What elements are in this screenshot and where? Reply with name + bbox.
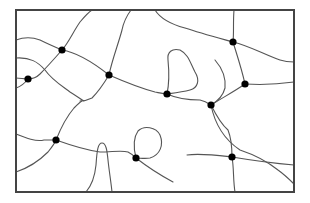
node-dot (207, 101, 214, 108)
node-dot (163, 90, 170, 97)
edge-line (134, 128, 161, 159)
node-dot (58, 46, 65, 53)
edge-line (62, 50, 109, 75)
edge-line (232, 157, 294, 165)
edge-line (109, 10, 131, 75)
node-dot (24, 75, 31, 82)
edge-line (211, 105, 294, 184)
edge-line (155, 10, 233, 42)
edge-line (136, 158, 173, 182)
node-dot (52, 136, 59, 143)
edge-line (80, 75, 109, 101)
edge-line (56, 101, 82, 140)
node-dot (241, 80, 248, 87)
edge-line (245, 82, 294, 84)
network-diagram (0, 0, 310, 203)
node-dot (132, 154, 139, 161)
node-dot (229, 38, 236, 45)
edge-line (62, 10, 92, 50)
edge-line (187, 154, 232, 157)
edge-line (233, 10, 234, 42)
diagram-frame (16, 10, 294, 192)
edge-line (167, 94, 211, 105)
edge-line (28, 50, 62, 79)
node-dot (228, 153, 235, 160)
edge-line (232, 157, 235, 192)
edge-line (233, 42, 245, 84)
edge-line (16, 134, 56, 141)
edge-line (109, 75, 167, 94)
nodes-group (24, 38, 248, 161)
edges-group (16, 10, 294, 192)
edge-line (167, 49, 198, 94)
node-dot (105, 71, 112, 78)
edge-line (16, 140, 56, 172)
edge-line (16, 38, 62, 50)
edge-line (233, 42, 294, 62)
edge-line (56, 140, 136, 158)
